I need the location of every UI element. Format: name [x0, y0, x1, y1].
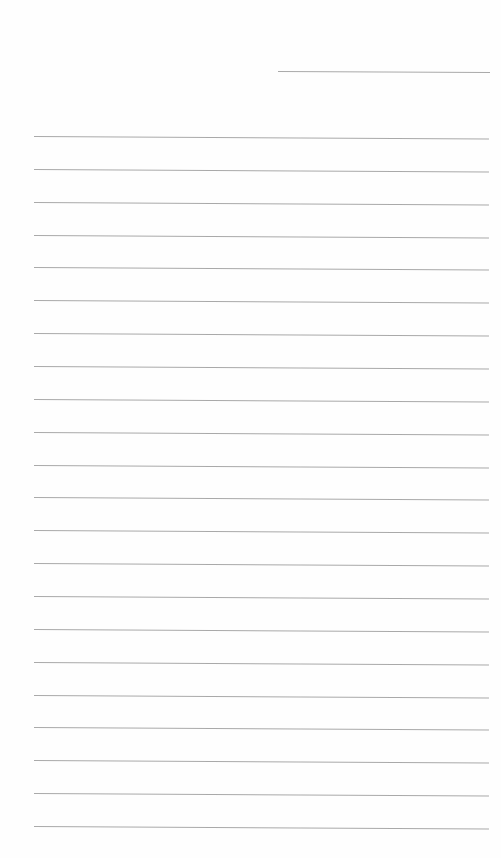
ruled-line: [34, 432, 489, 435]
ruled-line: [34, 202, 489, 205]
ruled-line: [34, 235, 489, 238]
ruled-line: [34, 333, 489, 336]
ruled-line: [34, 826, 489, 829]
ruled-line: [34, 563, 489, 566]
ruled-line: [34, 267, 489, 270]
ruled-line: [34, 169, 489, 172]
ruled-line: [34, 760, 489, 763]
ruled-lines: [0, 0, 501, 858]
ruled-line: [34, 465, 489, 468]
ruled-line: [34, 399, 489, 402]
ruled-line: [34, 596, 489, 599]
ruled-line: [34, 793, 489, 796]
ruled-line: [34, 300, 489, 303]
ruled-line: [34, 662, 489, 665]
ruled-line: [34, 629, 489, 632]
ruled-line: [34, 727, 489, 730]
lined-paper-page: [0, 0, 501, 858]
ruled-line: [34, 136, 489, 139]
ruled-line: [34, 695, 489, 698]
ruled-line: [34, 530, 489, 533]
ruled-line: [34, 366, 489, 369]
ruled-line: [34, 497, 489, 500]
